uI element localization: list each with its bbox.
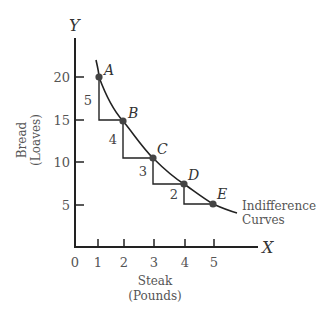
drop-label: 2 xyxy=(170,187,178,202)
point-label-c: C xyxy=(157,141,168,157)
drop-label: 3 xyxy=(139,164,147,179)
x-axis-title-line2: (Pounds) xyxy=(128,289,181,303)
x-tick-label: 2 xyxy=(120,255,128,270)
y-tick-label: 5 xyxy=(62,198,70,213)
curve-label-line1: Indifference xyxy=(242,199,316,213)
y-tick-label: 10 xyxy=(53,155,70,170)
drop-label: 4 xyxy=(109,132,117,147)
x-tick-label: 1 xyxy=(94,255,102,270)
y-tick-label: 20 xyxy=(53,70,70,85)
x-tick-label: 5 xyxy=(210,255,218,270)
indifference-curve xyxy=(96,60,237,213)
x-tick-label: 3 xyxy=(150,255,158,270)
drop-label: 5 xyxy=(84,93,92,108)
y-axis-letter: Y xyxy=(69,16,81,35)
y-ticks: 20 15 10 5 xyxy=(53,70,84,213)
point-label-d: D xyxy=(187,167,199,183)
point-label-e: E xyxy=(216,186,227,202)
x-axis-title-line1: Steak xyxy=(138,274,173,288)
x-axis-letter: X xyxy=(260,238,274,257)
point-label-b: B xyxy=(127,105,138,121)
curve-label-line2: Curves xyxy=(242,213,285,227)
chart-canvas: Y X 20 15 10 5 0 1 2 3 4 5 Steak (Pounds… xyxy=(0,0,322,316)
point-label-a: A xyxy=(102,62,114,78)
x-tick-label: 4 xyxy=(181,255,189,270)
x-tick-label: 0 xyxy=(71,255,79,270)
y-axis-title-line2: (Loaves) xyxy=(29,114,43,166)
y-tick-label: 15 xyxy=(53,113,70,128)
y-axis-title-line1: Bread xyxy=(15,121,29,158)
x-ticks: 0 1 2 3 4 5 xyxy=(71,239,218,270)
